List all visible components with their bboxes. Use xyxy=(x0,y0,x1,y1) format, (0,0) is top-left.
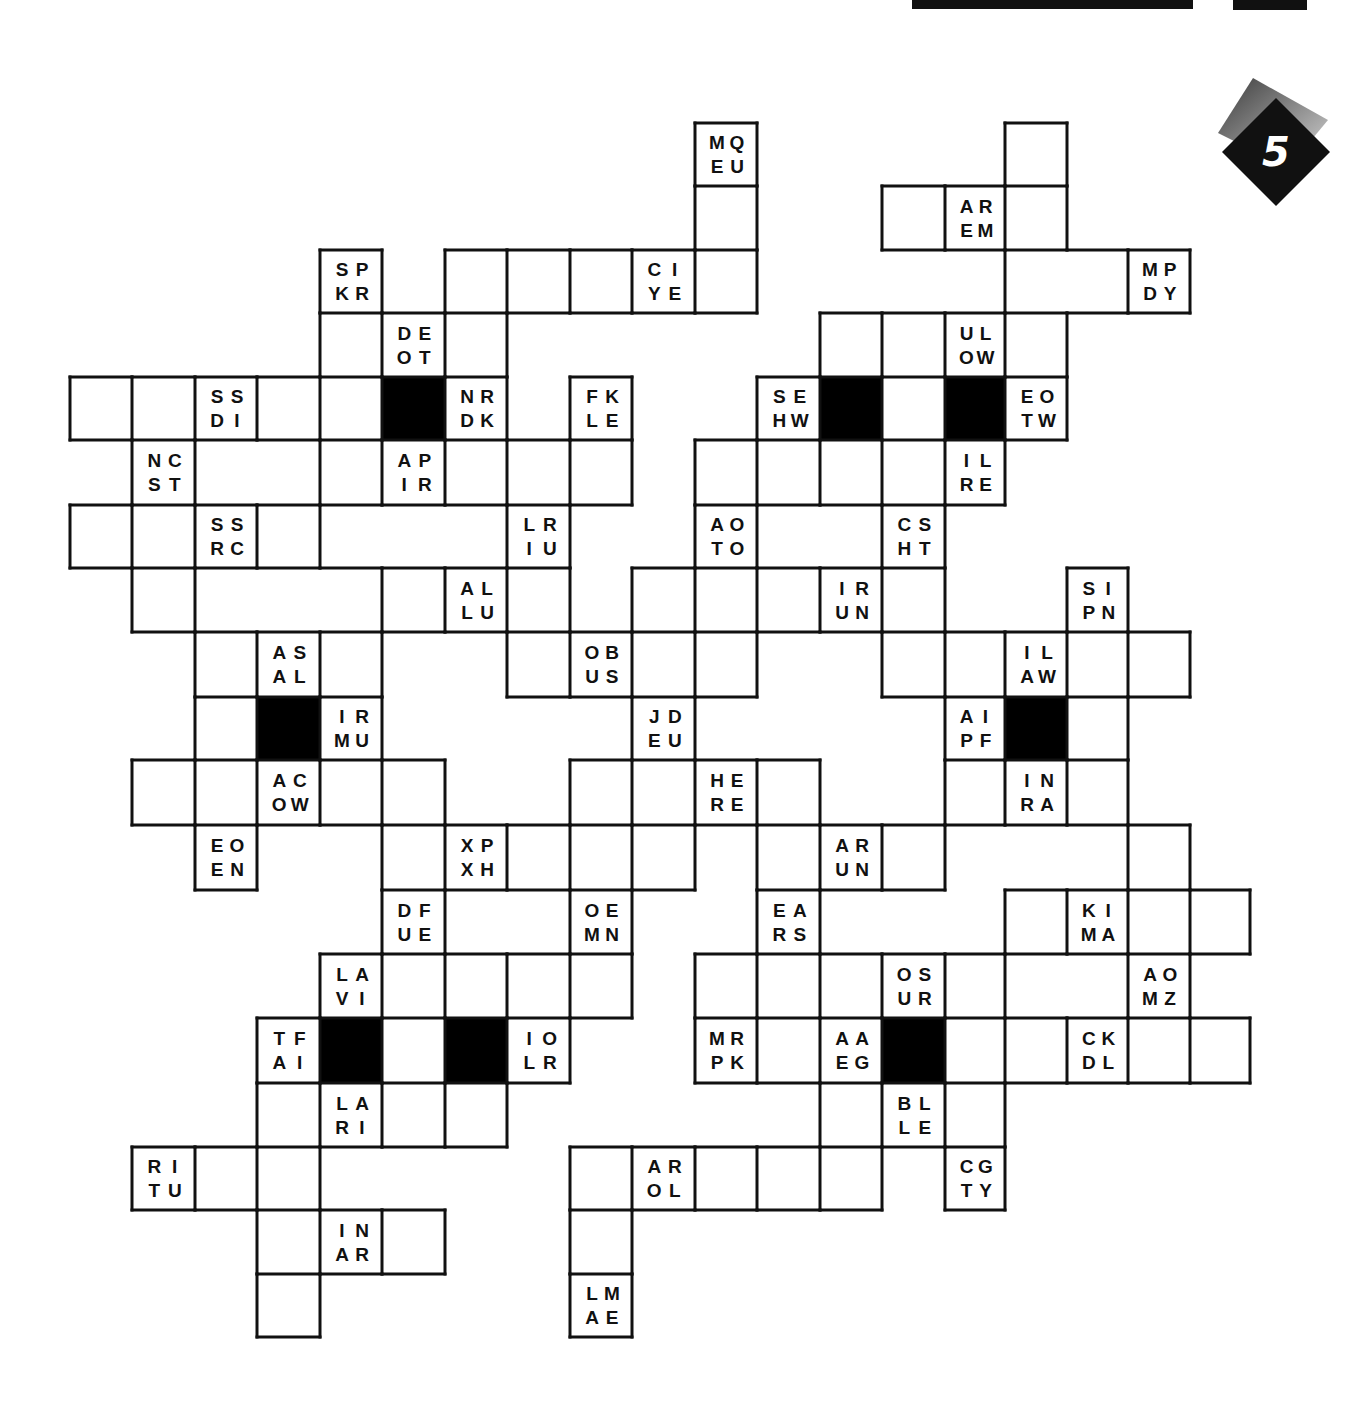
answer-cell[interactable] xyxy=(882,377,945,440)
answer-cell[interactable] xyxy=(195,760,257,825)
clue-cell[interactable]: DEOT xyxy=(382,313,445,377)
answer-cell[interactable] xyxy=(1128,890,1190,954)
clue-cell[interactable]: EOTW xyxy=(1005,377,1067,440)
clue-cell[interactable]: ASAL xyxy=(257,632,320,697)
clue-cell[interactable]: CSHT xyxy=(882,505,945,568)
clue-cell[interactable]: MQEU xyxy=(695,123,757,186)
answer-cell[interactable] xyxy=(132,505,195,568)
answer-cell[interactable] xyxy=(1067,697,1128,760)
answer-cell[interactable] xyxy=(70,377,132,440)
answer-cell[interactable] xyxy=(320,313,382,377)
clue-cell[interactable]: ILRE xyxy=(945,440,1005,505)
answer-cell[interactable] xyxy=(382,954,445,1018)
clue-cell[interactable]: NCST xyxy=(132,440,195,505)
answer-cell[interactable] xyxy=(945,954,1005,1018)
answer-cell[interactable] xyxy=(257,568,320,632)
answer-cell[interactable] xyxy=(695,440,757,505)
answer-cell[interactable] xyxy=(757,1147,820,1210)
answer-cell[interactable] xyxy=(945,1018,1005,1083)
answer-cell[interactable] xyxy=(757,760,820,825)
answer-cell[interactable] xyxy=(382,1018,445,1083)
answer-cell[interactable] xyxy=(257,440,320,505)
clue-cell[interactable]: SIPN xyxy=(1067,568,1128,632)
answer-cell[interactable] xyxy=(382,825,445,890)
clue-cell[interactable]: SSRC xyxy=(195,505,257,568)
answer-cell[interactable] xyxy=(882,825,945,890)
answer-cell[interactable] xyxy=(257,1083,320,1147)
answer-cell[interactable] xyxy=(507,440,570,505)
clue-cell[interactable]: OEMN xyxy=(570,890,632,954)
clue-cell[interactable]: AROL xyxy=(632,1147,695,1210)
clue-cell[interactable]: DFUE xyxy=(382,890,445,954)
answer-cell[interactable] xyxy=(132,760,195,825)
answer-cell[interactable] xyxy=(570,825,632,890)
clue-cell[interactable]: OBUS xyxy=(570,632,632,697)
answer-cell[interactable] xyxy=(570,954,632,1018)
answer-cell[interactable] xyxy=(882,440,945,505)
answer-cell[interactable] xyxy=(632,825,695,890)
answer-cell[interactable] xyxy=(882,186,945,250)
answer-cell[interactable] xyxy=(820,313,882,377)
clue-cell[interactable]: BLLE xyxy=(882,1083,945,1147)
answer-cell[interactable] xyxy=(445,440,507,505)
answer-cell[interactable] xyxy=(820,1147,882,1210)
answer-cell[interactable] xyxy=(1190,890,1250,954)
answer-cell[interactable] xyxy=(1005,186,1067,250)
clue-cell[interactable]: LARI xyxy=(320,1083,382,1147)
answer-cell[interactable] xyxy=(820,440,882,505)
clue-cell[interactable]: IRMU xyxy=(320,697,382,760)
answer-cell[interactable] xyxy=(882,313,945,377)
answer-cell[interactable] xyxy=(695,250,757,313)
answer-cell[interactable] xyxy=(570,1147,632,1210)
answer-cell[interactable] xyxy=(445,890,507,954)
clue-cell[interactable]: AREM xyxy=(945,186,1005,250)
answer-cell[interactable] xyxy=(195,1147,257,1210)
answer-cell[interactable] xyxy=(507,250,570,313)
answer-cell[interactable] xyxy=(1128,632,1190,697)
answer-cell[interactable] xyxy=(257,1147,320,1210)
answer-cell[interactable] xyxy=(632,760,695,825)
answer-cell[interactable] xyxy=(1005,250,1067,313)
answer-cell[interactable] xyxy=(820,1083,882,1147)
answer-cell[interactable] xyxy=(1067,954,1128,1018)
answer-cell[interactable] xyxy=(70,505,132,568)
answer-cell[interactable] xyxy=(1067,760,1128,825)
answer-cell[interactable] xyxy=(1005,313,1067,377)
answer-cell[interactable] xyxy=(382,1210,445,1274)
clue-cell[interactable]: ALLU xyxy=(445,568,507,632)
answer-cell[interactable] xyxy=(320,377,382,440)
answer-cell[interactable] xyxy=(570,250,632,313)
answer-cell[interactable] xyxy=(882,568,945,632)
answer-cell[interactable] xyxy=(132,568,195,632)
clue-cell[interactable]: SPKR xyxy=(320,250,382,313)
answer-cell[interactable] xyxy=(945,632,1005,697)
answer-cell[interactable] xyxy=(320,632,382,697)
answer-cell[interactable] xyxy=(507,825,570,890)
answer-cell[interactable] xyxy=(882,632,945,697)
answer-cell[interactable] xyxy=(257,377,320,440)
answer-cell[interactable] xyxy=(695,186,757,250)
clue-cell[interactable]: CGTY xyxy=(945,1147,1005,1210)
answer-cell[interactable] xyxy=(195,632,257,697)
answer-cell[interactable] xyxy=(445,954,507,1018)
clue-cell[interactable]: EOEN xyxy=(195,825,257,890)
answer-cell[interactable] xyxy=(1067,250,1128,313)
clue-cell[interactable]: AIPF xyxy=(945,697,1005,760)
answer-cell[interactable] xyxy=(757,440,820,505)
answer-cell[interactable] xyxy=(1190,1018,1250,1083)
answer-cell[interactable] xyxy=(257,505,320,568)
answer-cell[interactable] xyxy=(820,954,882,1018)
clue-cell[interactable]: ARUN xyxy=(820,825,882,890)
answer-cell[interactable] xyxy=(195,568,257,632)
clue-cell[interactable]: ILAW xyxy=(1005,632,1067,697)
clue-cell[interactable]: MRPK xyxy=(695,1018,757,1083)
clue-cell[interactable]: INRA xyxy=(1005,760,1067,825)
answer-cell[interactable] xyxy=(945,1083,1005,1147)
clue-cell[interactable]: INAR xyxy=(320,1210,382,1274)
clue-cell[interactable]: ACOW xyxy=(257,760,320,825)
answer-cell[interactable] xyxy=(1067,632,1128,697)
clue-cell[interactable]: ULOW xyxy=(945,313,1005,377)
clue-cell[interactable]: APIR xyxy=(382,440,445,505)
answer-cell[interactable] xyxy=(695,632,757,697)
answer-cell[interactable] xyxy=(1005,123,1067,186)
